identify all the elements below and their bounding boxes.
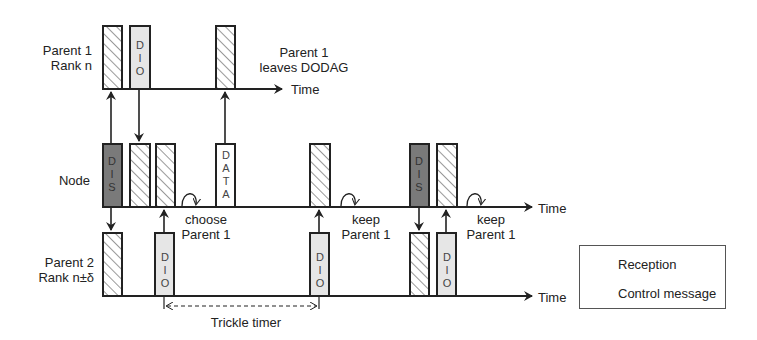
parent1-dio-text: DIO (130, 39, 150, 78)
node-data-text: DATA (216, 149, 236, 201)
parent2-label-line1: Parent 2 (14, 255, 94, 270)
node-reception-box-2 (156, 144, 175, 207)
node-dis-text-2: DIS (409, 155, 429, 194)
parent2-axis-label: Time (538, 290, 566, 305)
parent1-leaves-annotation: Parent 1 leaves DODAG (248, 45, 360, 75)
node-reception-box-3 (310, 144, 330, 207)
node-row-label: Node (10, 173, 90, 188)
parent2-label-line2: Rank n±δ (14, 270, 94, 285)
keep-parent-annotation-1: keep Parent 1 (336, 212, 396, 242)
node-reception-box-4 (437, 144, 457, 207)
parent1-reception-box-2 (216, 26, 235, 89)
trickle-timer-arrow (164, 297, 319, 309)
parent1-reception-box-1 (103, 26, 122, 89)
parent1-label-line1: Parent 1 (12, 43, 92, 58)
node-axis-label: Time (538, 201, 566, 216)
legend: Reception Control message (579, 245, 726, 309)
parent2-dio-text-1: DIO (155, 251, 175, 290)
parent2-row-label: Parent 2 Rank n±δ (14, 255, 94, 285)
parent1-row-label: Parent 1 Rank n (12, 43, 92, 73)
parent2-dio-text-2: DIO (310, 251, 330, 290)
legend-control-label: Control message (618, 286, 716, 301)
legend-reception-label: Reception (618, 257, 677, 272)
node-reception-box-1 (130, 144, 150, 207)
trickle-timer-label: Trickle timer (196, 315, 296, 330)
parent2-reception-box-2 (410, 233, 429, 296)
keep-parent-annotation-2: keep Parent 1 (461, 212, 521, 242)
parent2-dio-text-3: DIO (437, 251, 457, 290)
choose-parent-annotation: choose Parent 1 (176, 212, 236, 242)
parent1-label-line2: Rank n (12, 58, 92, 73)
parent1-axis-label: Time (291, 82, 319, 97)
node-dis-text-1: DIS (102, 155, 122, 194)
parent2-reception-box-1 (103, 233, 122, 296)
